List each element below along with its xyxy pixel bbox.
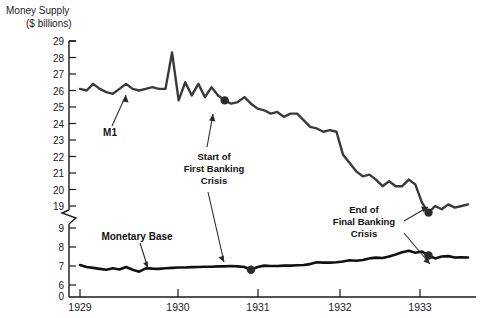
y-tick-label: 22: [53, 152, 65, 163]
y-ticks-upper: 29 28 27 26 25 24 23 22 21 20 19: [53, 36, 76, 212]
axis-break-zigzag: [62, 210, 76, 224]
y-tick-label: 29: [53, 36, 65, 47]
end-crisis-line2: Final Banking: [333, 216, 395, 227]
data-point-marker: [220, 96, 228, 104]
y-tick-label: 27: [53, 69, 65, 80]
y-tick-label: 21: [53, 168, 65, 179]
y-tick-label: 23: [53, 135, 65, 146]
data-point-marker: [247, 266, 255, 274]
y-tick-label-zero: 0: [58, 291, 64, 302]
series-line-monetary-base: [80, 251, 468, 272]
y-tick-label: 20: [53, 185, 65, 196]
chart-canvas: Money Supply ($ billions) 29 28 27 26 25…: [0, 0, 480, 318]
annotation-end-final-banking-crisis: End of Final Banking Crisis: [333, 204, 430, 264]
annotation-m1: M1: [103, 95, 129, 138]
y-tick-label: 28: [53, 53, 65, 64]
x-tick-label: 1929: [68, 301, 92, 313]
annotation-start-first-banking-crisis: Start of First Banking Crisis: [184, 114, 245, 262]
y-ticks-lower: 9 8 7 6 0: [58, 223, 76, 302]
end-crisis-line1: End of: [349, 204, 379, 215]
y-tick-label: 7: [58, 261, 64, 272]
y-tick-label: 19: [53, 201, 65, 212]
end-crisis-line3: Crisis: [351, 228, 377, 239]
y-tick-label: 6: [58, 280, 64, 291]
x-ticks: 1929 1930 1931 1932 1933: [68, 289, 432, 313]
m1-series-label: M1: [103, 127, 117, 138]
chart-title: Money Supply: [6, 5, 69, 16]
start-crisis-line1: Start of: [197, 151, 231, 162]
x-tick-label: 1933: [408, 301, 432, 313]
series-line-m1: [80, 53, 468, 213]
y-tick-label: 9: [58, 223, 64, 234]
start-crisis-line2: First Banking: [184, 163, 245, 174]
money-supply-chart: Money Supply ($ billions) 29 28 27 26 25…: [0, 0, 480, 318]
y-tick-label: 24: [53, 119, 65, 130]
monetary-base-series-label: Monetary Base: [101, 231, 173, 242]
x-tick-label: 1932: [328, 301, 352, 313]
annotation-monetary-base: Monetary Base: [101, 231, 173, 268]
x-tick-label: 1931: [246, 301, 270, 313]
x-tick-label: 1930: [166, 301, 190, 313]
y-tick-label: 26: [53, 86, 65, 97]
y-tick-label: 8: [58, 242, 64, 253]
chart-units-label: ($ billions): [26, 18, 72, 29]
y-tick-label: 25: [53, 102, 65, 113]
start-crisis-line3: Crisis: [201, 175, 227, 186]
